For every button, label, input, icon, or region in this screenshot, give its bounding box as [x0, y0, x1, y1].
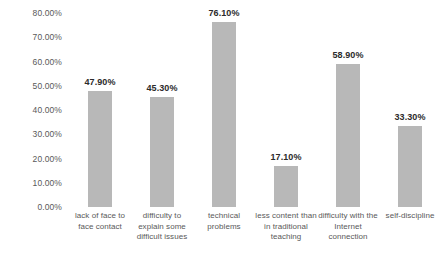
bar[interactable]: [212, 22, 236, 207]
bar-value-label: 76.10%: [208, 8, 239, 19]
x-axis-category-label: difficulty with the Internet connection: [316, 211, 380, 243]
x-axis-category-label: technical problems: [192, 211, 256, 232]
plot-area: 47.90%lack of face to face contact45.30%…: [66, 0, 440, 255]
y-axis-tick-label: 30.00%: [33, 129, 62, 139]
y-axis-tick-label: 0.00%: [37, 202, 62, 212]
bar[interactable]: [88, 91, 112, 207]
bar-group: 17.10%less content than in traditional t…: [255, 0, 317, 255]
bar-value-label: 45.30%: [146, 83, 177, 94]
bar-chart: 0.00%10.00%20.00%30.00%40.00%50.00%60.00…: [0, 0, 440, 255]
x-axis-category-label: self-discipline: [378, 211, 440, 222]
bar-group: 33.30%self-discipline: [379, 0, 440, 255]
y-axis-tick-label: 50.00%: [33, 81, 62, 91]
bar-group: 47.90%lack of face to face contact: [69, 0, 131, 255]
bar-value-label: 47.90%: [84, 77, 115, 88]
y-axis-tick-label: 20.00%: [33, 154, 62, 164]
bar-group: 58.90%difficulty with the Internet conne…: [317, 0, 379, 255]
bar-group: 45.30%difficulty to explain some difficu…: [131, 0, 193, 255]
bar-value-label: 58.90%: [332, 50, 363, 61]
y-axis-tick-label: 40.00%: [33, 105, 62, 115]
bar-value-label: 33.30%: [394, 112, 425, 123]
bar[interactable]: [274, 166, 298, 207]
x-axis-category-label: lack of face to face contact: [68, 211, 132, 232]
y-axis-tick-label: 60.00%: [33, 57, 62, 67]
bar-value-label: 17.10%: [270, 152, 301, 163]
bar[interactable]: [336, 64, 360, 207]
y-axis-tick-label: 80.00%: [33, 8, 62, 18]
bar[interactable]: [150, 97, 174, 207]
y-axis-tick-label: 70.00%: [33, 32, 62, 42]
x-axis-category-label: less content than in traditional teachin…: [254, 211, 318, 243]
y-axis: 0.00%10.00%20.00%30.00%40.00%50.00%60.00…: [0, 0, 66, 255]
bar[interactable]: [398, 126, 422, 207]
bar-group: 76.10%technical problems: [193, 0, 255, 255]
x-axis-category-label: difficulty to explain some difficult iss…: [130, 211, 194, 243]
y-axis-tick-label: 10.00%: [33, 178, 62, 188]
